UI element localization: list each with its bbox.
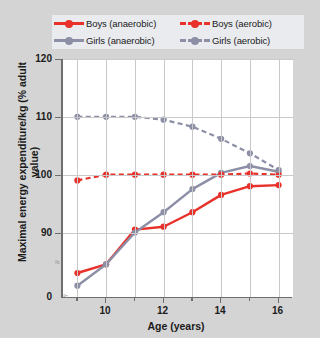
- x-tick-label: 10: [90, 305, 120, 316]
- x-tick: [249, 297, 250, 301]
- y-axis-break-marker: ≈: [55, 258, 60, 267]
- vertical-gridline: [192, 59, 193, 297]
- y-axis-title: Maximal energy expenditure/kg (% adult v…: [16, 52, 40, 272]
- legend-item-boys-aerobic: Boys (aerobic): [178, 15, 304, 32]
- chart-legend: Boys (anaerobic) Boys (aerobic) Girls (a…: [52, 15, 304, 49]
- y-tick: [55, 175, 62, 176]
- vertical-gridline: [221, 59, 222, 297]
- plot-gridlines: [63, 59, 293, 297]
- x-tick: [105, 297, 106, 303]
- x-axis-title: Age (years): [60, 320, 292, 332]
- x-axis-break-marker: ≈: [63, 292, 68, 301]
- horizontal-gridline: [63, 175, 293, 176]
- vertical-gridline: [135, 59, 136, 297]
- horizontal-gridline: [63, 233, 293, 234]
- x-tick: [278, 297, 279, 303]
- legend-swatch-girls-aerobic: [178, 35, 212, 46]
- legend-item-girls-anaerobic: Girls (anaerobic): [52, 32, 178, 49]
- y-axis-line: [61, 59, 62, 297]
- y-tick: [55, 117, 62, 118]
- legend-label-boys-aerobic: Boys (aerobic): [212, 18, 272, 29]
- horizontal-gridline: [63, 117, 293, 118]
- vertical-gridline: [279, 59, 280, 297]
- legend-label-boys-anaerobic: Boys (anaerobic): [86, 18, 156, 29]
- vertical-gridline: [77, 59, 78, 297]
- legend-item-girls-aerobic: Girls (aerobic): [178, 32, 304, 49]
- legend-swatch-boys-anaerobic: [52, 18, 86, 29]
- y-tick: [55, 233, 62, 234]
- vertical-gridline: [164, 59, 165, 297]
- x-tick: [76, 297, 77, 301]
- legend-label-girls-aerobic: Girls (aerobic): [212, 35, 270, 46]
- y-tick-label-zero: 0: [26, 291, 52, 302]
- vertical-gridline: [250, 59, 251, 297]
- x-tick-label: 16: [263, 305, 293, 316]
- legend-swatch-boys-aerobic: [178, 18, 212, 29]
- plot-area: [62, 59, 293, 297]
- x-tick: [163, 297, 164, 303]
- x-axis-line: [61, 297, 292, 298]
- x-tick-label: 12: [148, 305, 178, 316]
- legend-item-boys-anaerobic: Boys (anaerobic): [52, 15, 178, 32]
- x-tick: [220, 297, 221, 303]
- vertical-gridline: [106, 59, 107, 297]
- legend-swatch-girls-anaerobic: [52, 35, 86, 46]
- x-tick-label: 14: [205, 305, 235, 316]
- x-tick: [191, 297, 192, 301]
- chart-figure: Boys (anaerobic) Boys (aerobic) Girls (a…: [0, 0, 320, 338]
- horizontal-gridline: [63, 59, 293, 60]
- x-tick: [134, 297, 135, 301]
- y-tick: [55, 59, 62, 60]
- legend-label-girls-anaerobic: Girls (anaerobic): [86, 35, 155, 46]
